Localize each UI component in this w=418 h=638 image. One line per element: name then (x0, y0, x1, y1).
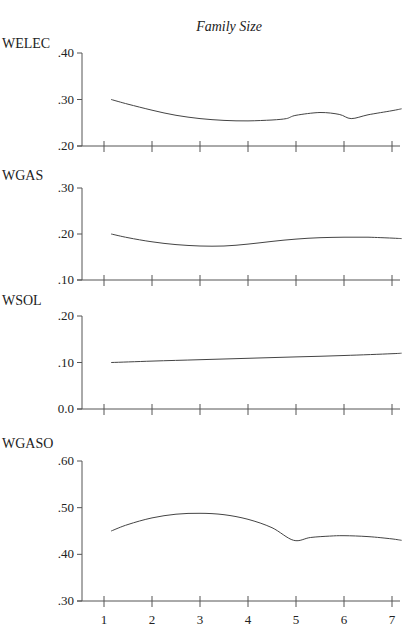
y-tick-label: .60 (58, 453, 74, 468)
x-tick-label: 5 (293, 612, 300, 627)
panel-welec: WELEC.40.30.20 (2, 36, 402, 153)
y-tick-label: .30 (58, 92, 74, 107)
y-tick-label: .10 (58, 355, 74, 370)
x-tick-label: 2 (149, 612, 156, 627)
panel-label: WSOL (2, 293, 42, 308)
y-tick-label: 0.0 (58, 401, 74, 416)
x-tick-label: 3 (197, 612, 204, 627)
y-tick-label: .50 (58, 500, 74, 515)
x-tick-label: 6 (341, 612, 348, 627)
y-tick-label: .10 (58, 272, 74, 287)
data-curve (111, 234, 401, 246)
x-tick-label: 4 (245, 612, 252, 627)
data-curve (111, 100, 401, 121)
panel-wgas: WGAS.30.20.10 (2, 168, 402, 287)
chart-title-text: Family Size (195, 19, 262, 34)
y-tick-label: .40 (58, 45, 74, 60)
y-tick-label: .20 (58, 138, 74, 153)
data-curve (111, 513, 401, 540)
family-size-chart: Family Size WELEC.40.30.20WGAS.30.20.10W… (0, 0, 418, 638)
y-tick-label: .20 (58, 226, 74, 241)
y-tick-label: .30 (58, 593, 74, 608)
panel-label: WGAS (2, 168, 43, 183)
x-tick-label: 1 (101, 612, 108, 627)
data-curve (111, 353, 401, 362)
x-tick-label: 7 (389, 612, 396, 627)
y-tick-label: .20 (58, 308, 74, 323)
panel-label: WELEC (2, 36, 50, 51)
y-tick-label: .30 (58, 180, 74, 195)
panel-label: WGASO (2, 436, 53, 451)
panel-wgaso: WGASO.60.50.40.301234567 (2, 436, 402, 627)
panels-group: WELEC.40.30.20WGAS.30.20.10WSOL.20.100.0… (2, 36, 402, 627)
y-tick-label: .40 (58, 546, 74, 561)
panel-wsol: WSOL.20.100.0 (2, 293, 402, 416)
